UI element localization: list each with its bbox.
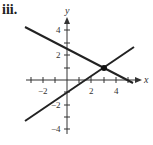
y-tick-label: 4: [56, 25, 61, 35]
y-tick-label: −4: [51, 124, 61, 134]
x-tick-label: 2: [89, 86, 94, 96]
y-axis: [64, 22, 70, 134]
x-tick-label: 4: [114, 86, 119, 96]
intersection-point: [101, 65, 107, 71]
y-axis-arrow-icon: [64, 17, 70, 24]
line-increasing: [25, 47, 134, 121]
y-axis-label: y: [64, 5, 70, 16]
y-tick-label: 2: [56, 50, 61, 60]
chart: x y −2 2 4 4 2 −2 −4: [0, 0, 153, 145]
line-decreasing: [25, 27, 133, 83]
x-axis-label: x: [143, 74, 149, 85]
x-axis-arrow-icon: [135, 77, 142, 83]
x-tick-label: −2: [38, 86, 48, 96]
